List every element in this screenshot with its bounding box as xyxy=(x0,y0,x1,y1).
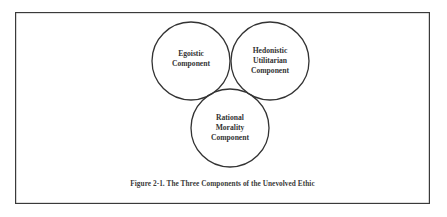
rational-label-line-3: Component xyxy=(211,133,249,142)
hedonistic-label-line-2: Utilitarian xyxy=(253,56,288,65)
hedonistic-label-line-1: Hedonistic xyxy=(253,46,288,55)
hedonistic-label-line-3: Component xyxy=(251,66,289,75)
hedonistic-utilitarian-component: Hedonistic Utilitarian Component xyxy=(231,22,309,100)
rational-label-line-2: Morality xyxy=(216,123,245,132)
egoistic-label-line-2: Component xyxy=(172,59,210,68)
egoistic-component: Egoistic Component xyxy=(152,22,230,100)
rational-morality-component: Rational Morality Component xyxy=(191,89,269,167)
egoistic-label-line-1: Egoistic xyxy=(178,49,204,58)
rational-label-line-1: Rational xyxy=(216,113,244,122)
figure-caption: Figure 2-1. The Three Components of the … xyxy=(15,179,430,188)
